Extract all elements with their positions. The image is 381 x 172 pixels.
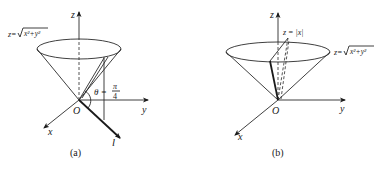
z-axis-label-b: z [269, 9, 274, 20]
surface-label-prefix: z= [7, 30, 17, 39]
caption-b: (b) [272, 147, 284, 159]
origin-label: O [73, 105, 80, 116]
plane-edge-back-2 [281, 40, 289, 99]
surface-label-a: z= x²+y² [7, 28, 48, 39]
angle-denominator: 4 [113, 92, 117, 101]
cone-left-edge [37, 49, 79, 100]
origin-label-b: O [272, 105, 279, 116]
plane-edge-back [278, 38, 288, 100]
line-l [79, 100, 120, 138]
x-axis-label-b: x [237, 131, 243, 142]
surface-label-prefix-b: z= [333, 48, 343, 57]
caption-a: (a) [70, 147, 81, 159]
panel-b: z y x O z = |x| z= x²+y² (b) [226, 9, 374, 159]
z-axis-label: z [70, 9, 75, 20]
surface-label-b: z= x²+y² [333, 46, 374, 57]
panel-a: z y x O l θ = π 4 z= x²+y² (a) [7, 9, 148, 159]
line-l-label: l [112, 136, 115, 148]
cone-left-edge-b [226, 52, 278, 100]
surface-label-radicand-b: x²+y² [349, 47, 367, 56]
angle-numerator: π [113, 82, 118, 91]
plane-label: z = |x| [282, 28, 303, 37]
x-axis-label: x [47, 126, 53, 137]
y-axis-label-b: y [339, 103, 345, 114]
surface-label-radicand: x²+y² [23, 29, 41, 38]
cone-right-edge-b [278, 52, 330, 100]
angle-theta-label: θ = [94, 87, 107, 97]
y-axis-label: y [141, 104, 147, 115]
plane-top-edge [270, 38, 288, 61]
figure-canvas: z y x O l θ = π 4 z= x²+y² (a) [0, 0, 381, 172]
